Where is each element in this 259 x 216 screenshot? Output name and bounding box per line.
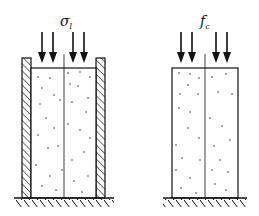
- confined-specimen-figure: σl: [14, 13, 114, 207]
- diagram-canvas: σl: [0, 0, 259, 216]
- load-arrows-left: [42, 32, 84, 56]
- ground-hatch-left: [14, 199, 114, 207]
- specimen-body-left: [31, 68, 96, 198]
- arrowheads-right: [177, 52, 231, 63]
- label-sigma-l: σl: [60, 13, 73, 31]
- load-arrows-right: [181, 32, 227, 56]
- arrowheads-left: [38, 52, 88, 63]
- unconfined-specimen-figure: fc: [163, 13, 247, 207]
- right-wall: [96, 58, 105, 198]
- label-fc: fc: [199, 13, 210, 31]
- ground-hatch-right: [163, 199, 247, 207]
- left-wall: [22, 58, 31, 198]
